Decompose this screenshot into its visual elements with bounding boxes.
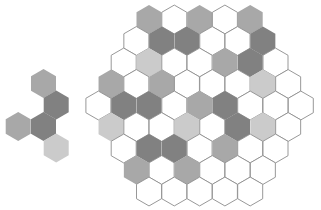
hex-board[interactable]	[0, 0, 321, 210]
hex-puzzle-game	[0, 0, 321, 210]
